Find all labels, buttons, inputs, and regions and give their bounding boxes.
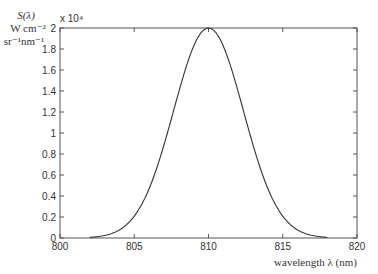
x-tick-label: 815 (274, 241, 291, 252)
y-tick-label: 1.6 (42, 65, 56, 76)
x-ticks: 800805810815820 (52, 28, 366, 252)
y-axis-label-line-3: sr⁻¹nm⁻¹ (4, 35, 45, 47)
y-axis-label-line-1: S(λ) (17, 9, 35, 22)
y-axis-label: S(λ) W cm⁻² sr⁻¹nm⁻¹ (4, 9, 47, 47)
plot-frame (60, 28, 357, 238)
y-tick-label: 1.2 (42, 107, 56, 118)
x-tick-label: 800 (52, 241, 69, 252)
x-tick-label: 810 (200, 241, 217, 252)
y-ticks: 00.20.40.60.811.21.41.61.82 (42, 23, 357, 244)
y-tick-label: 1.4 (42, 86, 56, 97)
y-tick-label: 0.4 (42, 191, 56, 202)
y-tick-label: 2 (50, 23, 56, 34)
chart: S(λ) W cm⁻² sr⁻¹nm⁻¹ x 10⁴ 00.20.40.60.8… (0, 0, 378, 274)
x-axis-label: wavelength λ (nm) (274, 256, 357, 269)
y-tick-label: 0.6 (42, 170, 56, 181)
y-multiplier: x 10⁴ (60, 13, 83, 24)
y-tick-label: 1.8 (42, 44, 56, 55)
x-tick-label: 820 (349, 241, 366, 252)
y-axis-label-line-2: W cm⁻² (10, 22, 46, 34)
y-tick-label: 0.8 (42, 149, 56, 160)
spectrum-curve (90, 28, 328, 237)
x-tick-label: 805 (126, 241, 143, 252)
y-tick-label: 0.2 (42, 212, 56, 223)
y-tick-label: 1 (50, 128, 56, 139)
